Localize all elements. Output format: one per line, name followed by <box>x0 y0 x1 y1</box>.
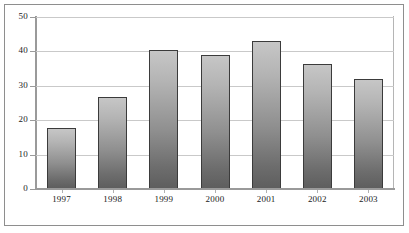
x-axis-label-1998: 1998 <box>88 194 138 204</box>
bar-1999 <box>149 50 178 189</box>
x-tick-mark-1999 <box>164 190 165 193</box>
bar-2003 <box>354 79 383 189</box>
x-axis-label-1999: 1999 <box>139 194 189 204</box>
y-axis-label-50: 50 <box>4 12 28 21</box>
bar-1998 <box>98 97 127 189</box>
gridline-50 <box>36 17 394 18</box>
plot-area <box>36 17 394 189</box>
y-axis-label-30: 30 <box>4 81 28 90</box>
x-axis-label-1997: 1997 <box>37 194 87 204</box>
y-axis-label-20: 20 <box>4 115 28 124</box>
x-axis-label-2000: 2000 <box>190 194 240 204</box>
x-tick-mark-2003 <box>368 190 369 193</box>
gridline-40 <box>36 51 394 52</box>
bar-2001 <box>252 41 281 189</box>
x-tick-mark-2001 <box>266 190 267 193</box>
y-tick-mark-20 <box>30 120 35 121</box>
y-tick-mark-0 <box>30 189 35 190</box>
y-axis-label-40: 40 <box>4 46 28 55</box>
x-axis-label-2003: 2003 <box>343 194 393 204</box>
y-tick-mark-50 <box>30 17 35 18</box>
y-tick-mark-10 <box>30 155 35 156</box>
bar-2000 <box>201 55 230 189</box>
x-tick-mark-1997 <box>62 190 63 193</box>
x-tick-mark-2000 <box>215 190 216 193</box>
bar-chart-figure: 01020304050 1997199819992000200120022003 <box>0 0 409 233</box>
y-tick-mark-30 <box>30 86 35 87</box>
y-tick-mark-40 <box>30 51 35 52</box>
bar-2002 <box>303 64 332 189</box>
x-axis-label-2001: 2001 <box>241 194 291 204</box>
y-axis-label-10: 10 <box>4 150 28 159</box>
x-tick-mark-2002 <box>317 190 318 193</box>
x-tick-mark-1998 <box>113 190 114 193</box>
y-axis-label-0: 0 <box>4 184 28 193</box>
x-axis-label-2002: 2002 <box>292 194 342 204</box>
bar-1997 <box>47 128 76 189</box>
